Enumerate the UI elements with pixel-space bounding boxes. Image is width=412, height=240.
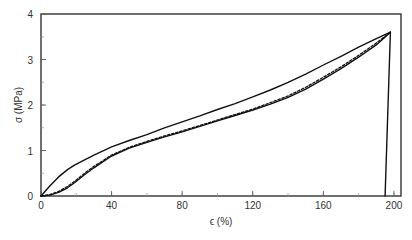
y-tick-label: 2 <box>27 100 33 111</box>
series-line-1 <box>41 32 390 196</box>
series-line-4 <box>385 32 390 196</box>
y-tick-label: 0 <box>27 191 33 202</box>
y-tick-label: 4 <box>27 9 33 20</box>
y-tick-label: 3 <box>27 55 33 66</box>
series-line-2 <box>41 32 390 196</box>
x-tick-label: 0 <box>38 200 44 211</box>
y-axis-label: σ (MPa) <box>13 87 24 123</box>
series-group <box>41 32 390 196</box>
x-axis-label: ϵ (%) <box>210 216 233 227</box>
x-tick-label: 40 <box>106 200 118 211</box>
x-tick-label: 120 <box>244 200 261 211</box>
x-tick-label: 200 <box>386 200 403 211</box>
series-line-3 <box>41 32 390 196</box>
plot-frame <box>41 14 401 196</box>
x-tick-label: 80 <box>177 200 189 211</box>
x-tick-label: 160 <box>315 200 332 211</box>
y-tick-label: 1 <box>27 146 33 157</box>
stress-strain-chart: 0408012016020001234 ϵ (%) σ (MPa) <box>0 0 412 240</box>
